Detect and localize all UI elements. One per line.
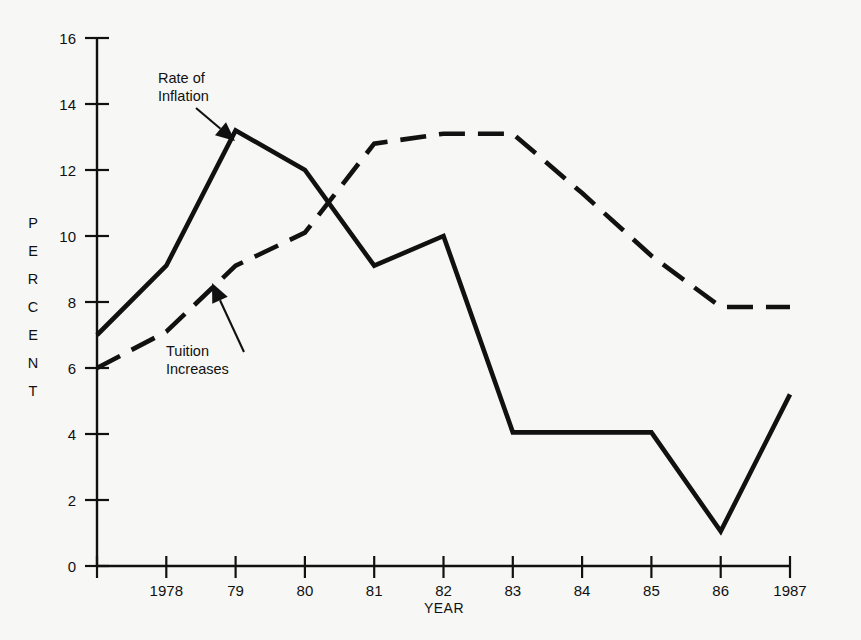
percent-vs-year-line-chart: 0246810121416 197879808182838485861987 P… — [0, 0, 861, 640]
annotation-label: Increases — [166, 361, 229, 377]
x-axis-title-label: YEAR — [424, 600, 464, 616]
y-tick-label: 2 — [68, 492, 76, 509]
y-axis-title-letter: P — [28, 215, 38, 231]
y-tick-label: 12 — [59, 162, 76, 179]
annotation-label: Inflation — [158, 88, 209, 104]
annotation-label: Rate of — [158, 70, 206, 86]
y-tick-label: 4 — [68, 426, 76, 443]
chart-background — [0, 0, 861, 640]
y-axis-title-letter: E — [28, 243, 38, 259]
y-tick-label: 10 — [59, 228, 76, 245]
chart-root: 0246810121416 197879808182838485861987 P… — [0, 0, 861, 640]
x-tick-label: 79 — [227, 582, 244, 599]
y-axis-title-letter: E — [28, 327, 38, 343]
x-tick-label: 1987 — [773, 582, 806, 599]
x-tick-label: 1978 — [150, 582, 183, 599]
y-axis-title-letter: R — [28, 271, 38, 287]
x-tick-label: 84 — [574, 582, 591, 599]
y-axis-title-letter: N — [28, 355, 38, 371]
y-tick-label: 16 — [59, 30, 76, 47]
y-tick-label: 8 — [68, 294, 76, 311]
x-tick-label: 86 — [712, 582, 729, 599]
x-tick-label: 80 — [297, 582, 314, 599]
y-axis-title-letter: T — [29, 383, 38, 399]
x-tick-label: 82 — [435, 582, 452, 599]
y-tick-label: 0 — [68, 558, 76, 575]
x-tick-label: 81 — [366, 582, 383, 599]
y-tick-label: 14 — [59, 96, 76, 113]
x-tick-label: 85 — [643, 582, 660, 599]
annotation-label: Tuition — [166, 343, 209, 359]
y-axis-title-letter: C — [28, 299, 38, 315]
y-tick-label: 6 — [68, 360, 76, 377]
x-tick-label: 83 — [504, 582, 521, 599]
